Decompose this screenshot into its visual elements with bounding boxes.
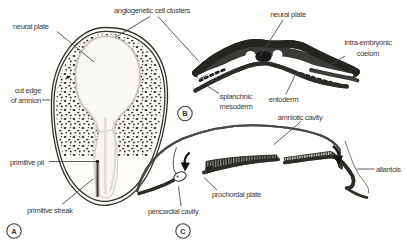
label-neural-plate-b: neural plate [270, 10, 306, 19]
neural-plate-blob [255, 51, 271, 62]
label-primitive-pit: primitive pit [10, 158, 45, 167]
label-neural-plate-a: neural plate [13, 22, 49, 31]
label-angiogenetic-cell-clusters: angiogenetic cell clusters [114, 6, 191, 15]
label-splanchnic: splanchnic [220, 92, 253, 101]
label-entoderm: entoderm [269, 95, 298, 104]
label-allantois: allantois [376, 165, 401, 174]
primitive-pit-dot [96, 160, 99, 163]
label-cut-edge-line2: of amnion [11, 96, 41, 105]
panel-letter-a: A [7, 224, 21, 238]
embryo-diagram-svg: angiogenetic cell clusters neural plate … [0, 0, 407, 247]
panel-letter-b-text: B [182, 109, 188, 118]
neural-groove-gap-left [246, 51, 256, 60]
label-intra-embryonic: intra-embryonic [344, 38, 392, 47]
panel-letter-c: C [176, 224, 190, 238]
figure: angiogenetic cell clusters neural plate … [0, 0, 407, 247]
label-prochordal-plate: prochordal plate [212, 190, 261, 199]
panel-letter-b: B [178, 106, 192, 120]
panel-letter-a-text: A [11, 227, 17, 236]
label-pericardial-cavity: pericardial cavity [148, 207, 199, 216]
label-primitive-streak: primitive streak [27, 206, 73, 215]
label-mesoderm: mesoderm [219, 102, 252, 111]
panel-letter-c-text: C [180, 227, 186, 236]
label-cut-edge-line1: cut edge [15, 86, 42, 95]
pericardial-speck [177, 176, 179, 178]
label-amniotic-cavity: amniotic cavity [278, 113, 323, 122]
neural-groove-gap-right [273, 50, 283, 59]
cell-cluster-dot [66, 75, 69, 78]
label-coelom: coelom [357, 49, 379, 58]
